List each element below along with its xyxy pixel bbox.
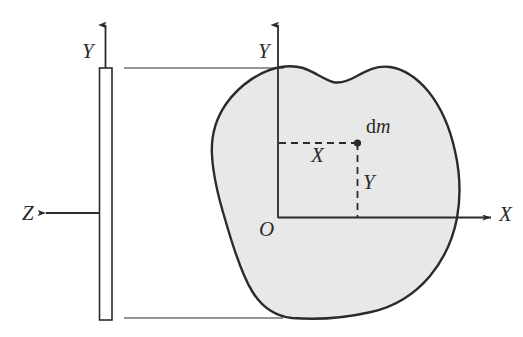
label-y-axis-left: Y: [82, 41, 94, 62]
differential-mass-element-point: [354, 139, 361, 146]
figure-canvas: Y Y Z X O X Y dm: [0, 0, 523, 337]
label-z-axis: Z: [22, 203, 34, 224]
label-dm-symbol: m: [376, 115, 390, 137]
lamina-outline: [212, 66, 460, 318]
label-y-distance: Y: [363, 172, 375, 193]
label-y-axis-main: Y: [258, 41, 270, 62]
irregular-lamina: [212, 66, 460, 318]
label-x-axis: X: [499, 204, 512, 225]
thin-plate-edge-view: [100, 68, 113, 320]
label-differential-mass: dm: [366, 116, 390, 136]
label-x-distance: X: [311, 145, 324, 166]
label-origin: O: [259, 219, 274, 240]
label-dm-prefix: d: [366, 115, 376, 137]
